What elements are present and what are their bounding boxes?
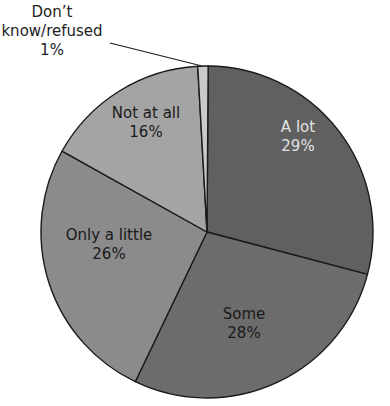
label-a-lot-pct: 29% [281,137,315,156]
pie-chart [0,0,390,406]
label-only-a-little-name: Only a little [66,226,153,245]
label-dont-know-pct: 1% [1,41,102,60]
label-some-name: Some [223,305,266,324]
label-some-pct: 28% [223,324,266,343]
label-a-lot-name: A lot [281,118,315,137]
label-not-at-all-name: Not at all [112,104,180,123]
label-dont-know-refused: Don’t know/refused 1% [1,3,102,60]
label-dont-know-line1: Don’t [1,3,102,22]
label-not-at-all: Not at all 16% [112,104,180,142]
label-a-lot: A lot 29% [281,118,315,156]
label-only-a-little: Only a little 26% [66,226,153,264]
label-not-at-all-pct: 16% [112,123,180,142]
label-only-a-little-pct: 26% [66,245,153,264]
callout-leader-line [110,43,202,66]
label-dont-know-line2: know/refused [1,22,102,41]
label-some: Some 28% [223,305,266,343]
